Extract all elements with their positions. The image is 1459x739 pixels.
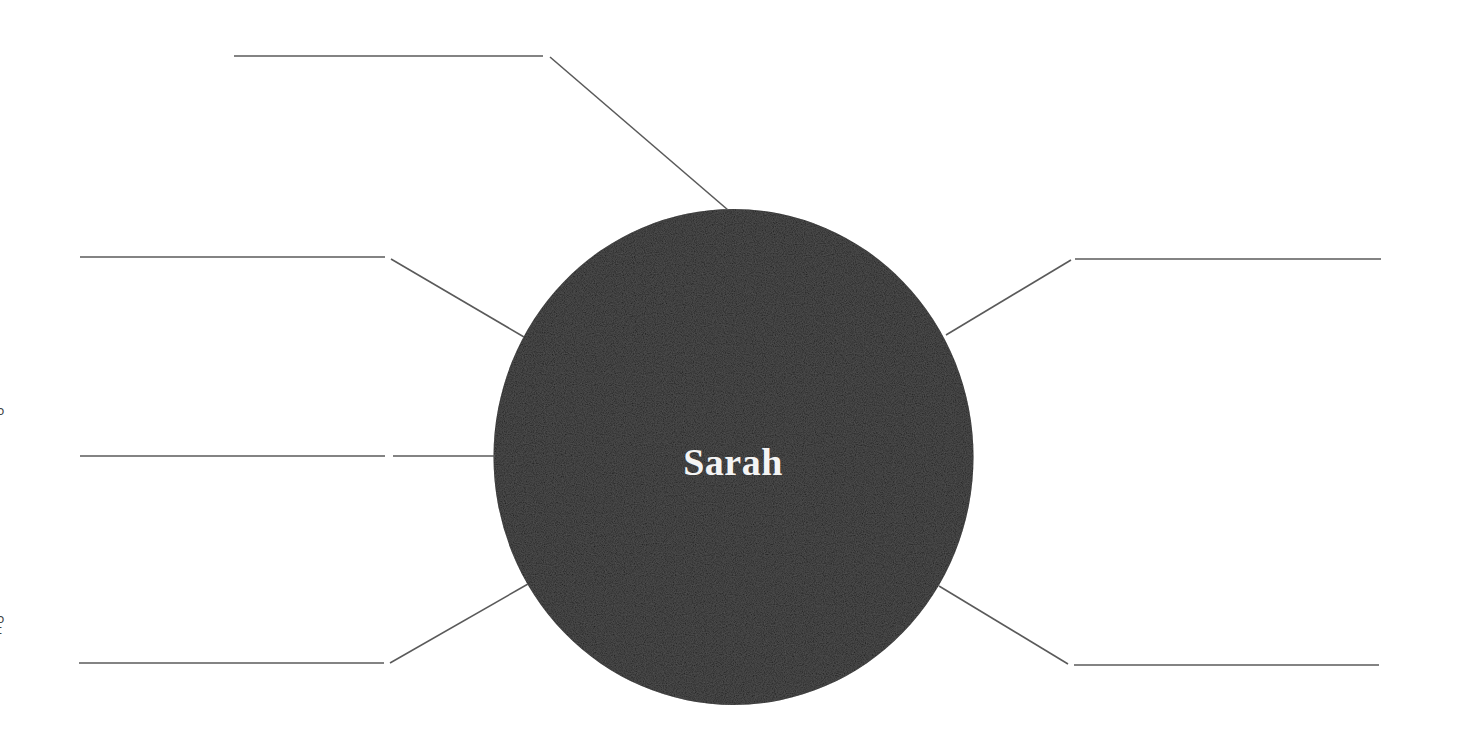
edge-mark: o (0, 405, 4, 417)
connector-right-lower (939, 586, 1068, 664)
edge-mark: t (0, 624, 2, 636)
connector-left-upper (391, 259, 524, 337)
center-node-label: Sarah (633, 436, 833, 488)
character-web-diagram (0, 0, 1459, 739)
spoke-left-lower (79, 584, 528, 663)
spoke-right-upper (946, 259, 1381, 335)
connector-right-upper (946, 260, 1071, 335)
spoke-right-lower (939, 586, 1379, 665)
spoke-top-left (234, 56, 728, 210)
connector-top-left (550, 57, 728, 210)
spoke-left-upper (80, 257, 524, 337)
connector-left-lower (390, 584, 528, 663)
